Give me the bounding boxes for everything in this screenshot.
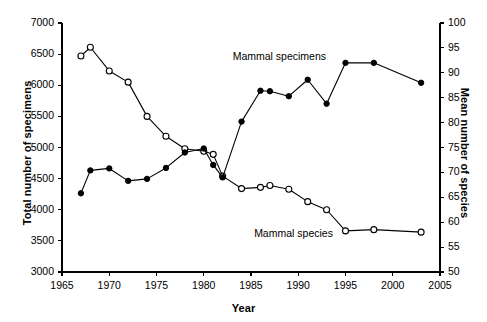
data-point — [239, 186, 245, 192]
data-point — [201, 146, 206, 151]
series-mammal-specimens — [78, 44, 424, 235]
data-point — [286, 94, 291, 99]
plot-area: Mammal specimensMammal species — [0, 0, 487, 322]
data-point — [324, 101, 329, 106]
data-point — [211, 162, 216, 167]
series-annotation: Mammal species — [254, 227, 333, 239]
data-point — [78, 53, 84, 59]
data-point — [87, 44, 93, 50]
data-point — [144, 113, 150, 119]
data-point — [210, 151, 216, 157]
data-series-layer — [78, 44, 424, 235]
data-point — [305, 199, 311, 205]
series-annotation: Mammal specimens — [233, 50, 326, 62]
data-point — [267, 89, 272, 94]
data-point — [107, 166, 112, 171]
data-point — [343, 60, 348, 65]
data-point — [106, 68, 112, 74]
data-point — [343, 228, 349, 234]
data-point — [125, 79, 131, 85]
data-point — [163, 133, 169, 139]
data-point — [418, 80, 423, 85]
annotation-layer: Mammal specimensMammal species — [233, 50, 333, 239]
data-point — [371, 60, 376, 65]
data-point — [125, 178, 130, 183]
data-point — [267, 182, 273, 188]
data-point — [163, 165, 168, 170]
data-point — [257, 184, 263, 190]
data-point — [371, 227, 377, 233]
data-point — [144, 176, 149, 181]
data-point — [305, 77, 310, 82]
data-point — [88, 168, 93, 173]
data-point — [418, 229, 424, 235]
data-point — [286, 186, 292, 192]
chart-figure: Total number of specimens Mean number of… — [0, 0, 487, 322]
data-point — [258, 88, 263, 93]
data-point — [220, 175, 225, 180]
data-point — [324, 207, 330, 213]
data-point — [239, 119, 244, 124]
data-point — [182, 150, 187, 155]
data-point — [78, 191, 83, 196]
